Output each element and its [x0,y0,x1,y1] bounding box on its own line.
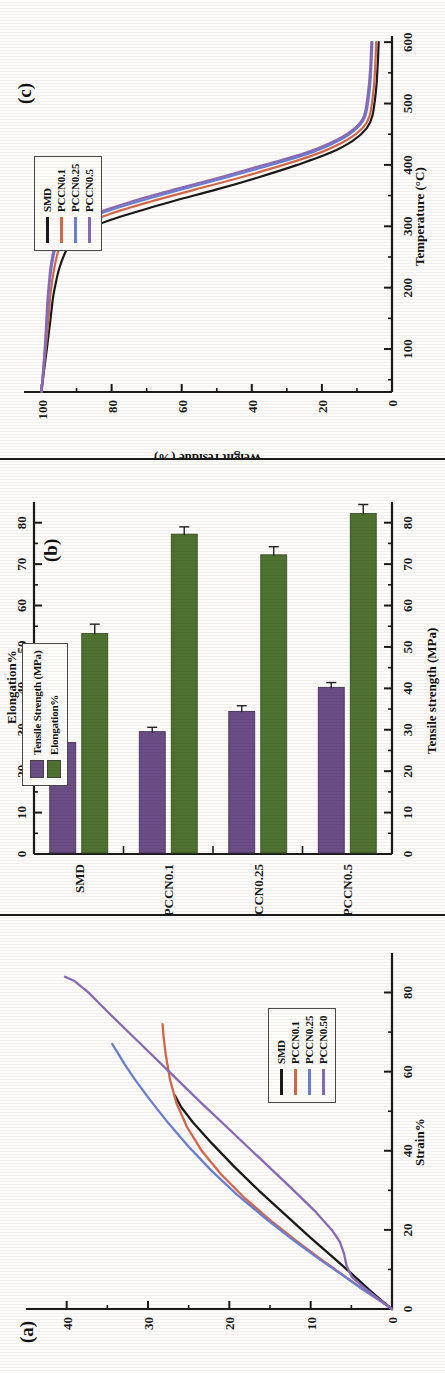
svg-text:SMD: SMD [72,864,87,893]
svg-text:70: 70 [14,558,29,571]
svg-text:20: 20 [222,1317,237,1330]
legend-item: PCCN0.5 [82,164,96,243]
panel-a-legend: SMDPCCN0.1PCCN0.25PCCN0.50 [268,1008,336,1103]
svg-text:0: 0 [385,400,400,407]
svg-text:20: 20 [400,765,415,778]
legend-line-swatch [322,1069,325,1095]
svg-text:60: 60 [14,599,29,612]
panel-a-stress-strain: (a) 020406080010203040 SMDPCCN0.1PCCN0.2… [0,914,445,1373]
svg-text:100: 100 [400,339,415,359]
svg-text:10: 10 [14,806,29,819]
svg-text:0: 0 [400,1306,415,1313]
panel-c-tag: (c) [14,83,36,104]
svg-text:70: 70 [400,558,415,571]
legend-item: PCCN0.50 [316,1016,330,1095]
legend-item: PCCN0.1 [288,1016,302,1095]
legend-label: PCCN0.5 [83,169,95,212]
svg-text:0: 0 [400,851,415,858]
legend-label: PCCN0.1 [289,1021,301,1064]
legend-label: PCCN0.25 [303,1016,315,1064]
bar-elongation [350,513,376,853]
legend-line-swatch [74,217,77,243]
legend-item: PCCN0.1 [54,164,68,243]
svg-text:40: 40 [245,400,260,413]
legend-item: PCCN0.25 [302,1016,316,1095]
legend-label: PCCN0.25 [69,164,81,212]
panel-c-xlabel: Temperature (°C) [412,167,428,266]
legend-label: PCCN0.1 [55,169,67,212]
legend-color-swatch [47,760,61,778]
legend-label: Tensile Strength (MPa) [31,651,43,755]
panel-a-svg: 020406080010203040 [0,916,445,1371]
bar-elongation [261,555,287,853]
svg-text:40: 40 [400,682,415,695]
svg-text:PCCN0.25: PCCN0.25 [251,864,266,914]
svg-text:100: 100 [35,400,50,420]
svg-text:PCCN0.5: PCCN0.5 [340,864,355,914]
svg-text:60: 60 [400,1065,415,1078]
legend-line-swatch [60,217,63,243]
svg-text:PCCN0.1: PCCN0.1 [161,864,176,914]
panel-a-tag: (a) [16,1321,38,1343]
bar-elongation [82,634,108,853]
panel-b-top-axis-label: Elongation% [4,650,20,724]
panel-b-bottom-axis-label: Tensile strength (MPa) [424,628,440,754]
panel-a-xlabel: Strain% [412,1118,428,1166]
panel-c-tga: (c) 100200300400500600020406080100 SMDPC… [0,0,445,460]
legend-color-swatch [30,760,44,778]
svg-text:60: 60 [175,400,190,413]
svg-text:10: 10 [400,806,415,819]
bar-tensile-strength [229,711,255,853]
svg-text:30: 30 [400,723,415,736]
svg-text:600: 600 [400,32,415,52]
legend-label: SMD [41,188,53,212]
legend-item: Tensile Strength (MPa) [28,651,45,778]
svg-text:80: 80 [400,986,415,999]
bar-elongation [171,534,197,853]
legend-label: Elongation% [48,695,60,755]
svg-text:0: 0 [385,1317,400,1324]
legend-line-swatch [294,1069,297,1095]
legend-label: PCCN0.50 [317,1016,329,1064]
panel-b-mechanical: (b) 0010102020303040405050606070708080SM… [0,458,445,918]
legend-item: Elongation% [45,651,62,778]
svg-text:80: 80 [105,400,120,413]
bar-tensile-strength [318,687,344,853]
panel-b-tag: (b) [40,539,62,562]
legend-line-swatch [280,1069,283,1095]
svg-text:10: 10 [304,1317,319,1330]
svg-text:0: 0 [14,851,29,858]
svg-text:20: 20 [400,1223,415,1236]
legend-label: SMD [275,1040,287,1064]
svg-text:20: 20 [315,400,330,413]
legend-line-swatch [88,217,91,243]
svg-text:60: 60 [400,599,415,612]
svg-text:40: 40 [60,1317,75,1330]
legend-line-swatch [46,217,49,243]
legend-item: PCCN0.25 [68,164,82,243]
legend-line-swatch [308,1069,311,1095]
svg-text:80: 80 [400,516,415,529]
svg-text:30: 30 [141,1317,156,1330]
panel-c-legend: SMDPCCN0.1PCCN0.25PCCN0.5 [34,156,102,251]
svg-text:80: 80 [14,516,29,529]
svg-text:50: 50 [400,640,415,653]
panel-b-legend: Tensile Strength (MPa)Elongation% [22,643,68,786]
svg-text:200: 200 [400,278,415,298]
svg-text:500: 500 [400,94,415,114]
legend-item: SMD [40,164,54,243]
bar-tensile-strength [139,732,165,853]
legend-item: SMD [274,1016,288,1095]
